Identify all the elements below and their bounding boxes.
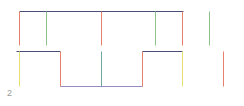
signal-timing-diagram (0, 0, 244, 106)
diagram-label: 2 (7, 88, 12, 98)
